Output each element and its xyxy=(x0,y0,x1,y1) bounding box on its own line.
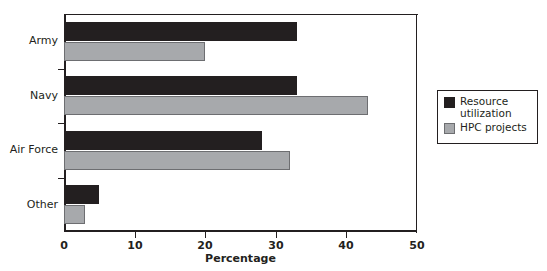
light-square-swatch-icon xyxy=(444,123,455,134)
x-tick-label-40: 40 xyxy=(338,239,353,252)
x-tick-label-0: 0 xyxy=(60,239,68,252)
legend-item-resource-utilization: Resource utilization xyxy=(444,96,533,119)
x-tick-20 xyxy=(205,232,206,238)
dark-square-swatch-icon xyxy=(444,97,455,108)
legend-label: HPC projects xyxy=(460,122,527,134)
x-axis-title: Percentage xyxy=(64,252,417,265)
bar-chart-figure: ArmyNavyAir ForceOther 01020304050 Perce… xyxy=(0,0,547,271)
x-tick-label-10: 10 xyxy=(127,239,142,252)
x-tick-40 xyxy=(346,232,347,238)
x-tick-label-50: 50 xyxy=(409,239,424,252)
x-tick-30 xyxy=(276,232,277,238)
legend-item-hpc-projects: HPC projects xyxy=(444,122,533,134)
legend-label: Resource utilization xyxy=(460,96,533,119)
x-tick-label-30: 30 xyxy=(268,239,283,252)
x-tick-label-20: 20 xyxy=(197,239,212,252)
x-tick-10 xyxy=(135,232,136,238)
chart-legend: Resource utilization HPC projects xyxy=(437,90,538,144)
